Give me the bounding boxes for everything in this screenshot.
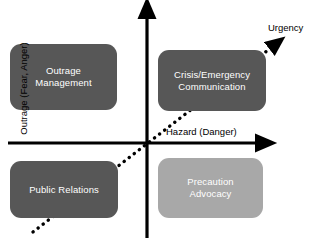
quadrant-public-relations[interactable]: Public Relations [10, 161, 118, 218]
risk-communication-diagram: Outrage Management Crisis/Emergency Comm… [0, 0, 316, 242]
quadrant-label-line1: Crisis/Emergency [174, 69, 250, 80]
horizontal-axis-label: Hazard (Danger) [166, 126, 237, 137]
urgency-axis-label: Urgency [268, 22, 303, 33]
quadrant-label-line1: Outrage [46, 65, 81, 76]
quadrant-crisis-emergency-communication[interactable]: Crisis/Emergency Communication [158, 50, 266, 111]
quadrant-label: Precaution Advocacy [187, 176, 233, 200]
quadrant-label: Outrage Management [35, 65, 91, 89]
quadrant-label: Public Relations [29, 184, 99, 196]
quadrant-label-line2: Management [35, 77, 91, 88]
quadrant-label-line1: Precaution [187, 176, 233, 187]
vertical-axis-label: Outrage (Fear, Anger) [18, 39, 29, 139]
quadrant-label: Crisis/Emergency Communication [174, 69, 250, 93]
quadrant-label-line2: Advocacy [189, 188, 231, 199]
quadrant-label-line2: Communication [178, 81, 245, 92]
quadrant-precaution-advocacy[interactable]: Precaution Advocacy [158, 158, 263, 218]
